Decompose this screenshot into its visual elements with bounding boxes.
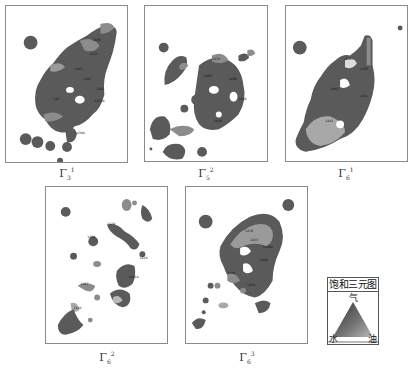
svg-text:1419: 1419 bbox=[247, 283, 255, 287]
saturation-map-1: 1546 1427 1441 1320 1481 1431A 142 1430A bbox=[6, 6, 127, 162]
panel-2-caption: Γ52 bbox=[176, 166, 236, 181]
svg-text:1408A: 1408A bbox=[263, 245, 274, 249]
svg-text:142: 142 bbox=[53, 97, 59, 101]
svg-text:1470: 1470 bbox=[212, 57, 220, 61]
map-panel-5: 1478 1453 1408A 1400 1444 1419 bbox=[185, 186, 308, 344]
svg-text:1419: 1419 bbox=[139, 256, 147, 260]
svg-text:1488: 1488 bbox=[229, 77, 237, 81]
svg-text:1491: 1491 bbox=[345, 57, 353, 61]
svg-text:1478: 1478 bbox=[245, 229, 253, 233]
map-panel-2: 1470 1483 1488 1430 1456 bbox=[144, 5, 268, 162]
svg-text:1481: 1481 bbox=[97, 87, 105, 91]
legend-top-label: 气 bbox=[349, 291, 358, 304]
svg-text:1479: 1479 bbox=[107, 222, 115, 226]
svg-text:1483: 1483 bbox=[204, 74, 212, 78]
saturation-map-5: 1478 1453 1408A 1400 1444 1419 bbox=[186, 187, 307, 343]
svg-text:1400: 1400 bbox=[260, 258, 268, 262]
svg-text:1546: 1546 bbox=[93, 38, 101, 42]
svg-text:1401A: 1401A bbox=[129, 275, 140, 279]
panel-1-caption: Γ31 bbox=[37, 166, 97, 181]
map-panel-1: 1546 1427 1441 1320 1481 1431A 142 1430A bbox=[5, 5, 128, 163]
legend-right-label: 油 bbox=[368, 332, 377, 345]
svg-text:1444: 1444 bbox=[227, 271, 235, 275]
svg-text:1456: 1456 bbox=[214, 119, 222, 123]
svg-text:1430A: 1430A bbox=[75, 131, 86, 135]
panel-5-caption: Γ63 bbox=[217, 350, 277, 365]
legend-title: 饱和三元图 bbox=[328, 278, 378, 292]
legend-left-label: 水 bbox=[329, 332, 338, 345]
svg-text:1427: 1427 bbox=[90, 52, 98, 56]
svg-text:1453: 1453 bbox=[250, 238, 258, 242]
map-panel-3: 1491 1458 1443 1451 1441 bbox=[285, 5, 408, 162]
svg-text:1451: 1451 bbox=[360, 94, 368, 98]
svg-text:1467: 1467 bbox=[80, 282, 88, 286]
saturation-map-2: 1470 1483 1488 1430 1456 bbox=[145, 6, 267, 161]
svg-text:1441: 1441 bbox=[325, 119, 333, 123]
svg-text:1458: 1458 bbox=[360, 67, 368, 71]
svg-text:1496: 1496 bbox=[87, 235, 95, 239]
svg-text:1441: 1441 bbox=[75, 67, 83, 71]
saturation-ternary-legend: 饱和三元图 气 水 油 bbox=[327, 277, 379, 345]
svg-text:1430: 1430 bbox=[238, 97, 246, 101]
saturation-map-3: 1491 1458 1443 1451 1441 bbox=[286, 6, 407, 161]
svg-text:1320: 1320 bbox=[83, 77, 91, 81]
saturation-map-4: 1479 1496 1419 1401A 1467 1440 bbox=[46, 187, 167, 343]
panel-4-caption: Γ62 bbox=[77, 350, 137, 365]
svg-text:1443: 1443 bbox=[330, 87, 338, 91]
map-panel-4: 1479 1496 1419 1401A 1467 1440 bbox=[45, 186, 168, 344]
svg-text:1431A: 1431A bbox=[95, 99, 106, 103]
svg-text:1440: 1440 bbox=[74, 306, 82, 310]
panel-3-caption: Γ61 bbox=[316, 166, 376, 181]
